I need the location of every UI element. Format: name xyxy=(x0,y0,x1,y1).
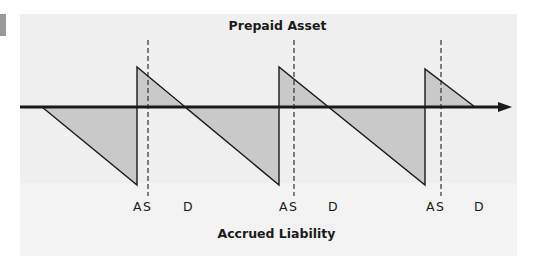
marker-s-3: S xyxy=(436,199,444,214)
prepaid-asset-label: Prepaid Asset xyxy=(3,18,549,33)
marker-s-2: S xyxy=(289,199,297,214)
marker-a-2: A xyxy=(279,199,288,214)
marker-d-1: D xyxy=(183,199,193,214)
marker-s-1: S xyxy=(143,199,151,214)
marker-a-3: A xyxy=(426,199,435,214)
marker-d-3: D xyxy=(474,199,484,214)
marker-d-2: D xyxy=(328,199,338,214)
accrued-liability-label: Accrued Liability xyxy=(2,226,549,241)
marker-a-1: A xyxy=(133,199,142,214)
axis-arrow-icon xyxy=(498,102,512,112)
